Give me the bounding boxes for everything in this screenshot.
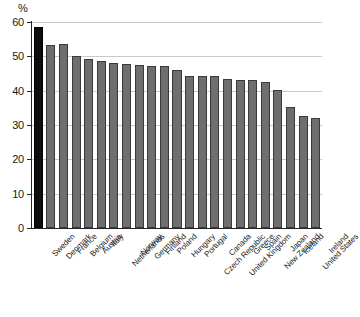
y-axis-tick-label: 20 [0, 153, 24, 165]
y-axis-tick-label: 0 [0, 222, 24, 234]
y-axis-tick-label-wrap: 50 [0, 50, 24, 62]
bar [273, 90, 282, 228]
bar [147, 66, 156, 228]
y-axis-tick-label: 60 [0, 16, 24, 28]
bar [248, 80, 257, 228]
bar [84, 59, 93, 228]
y-axis-tick-label: 50 [0, 50, 24, 62]
y-axis-tick [27, 228, 32, 229]
y-axis-tick-label-wrap: 40 [0, 85, 24, 97]
y-axis-tick-label: 10 [0, 188, 24, 200]
bar [198, 76, 207, 228]
bar [72, 56, 81, 228]
y-axis-tick-label-wrap: 0 [0, 222, 24, 234]
bar [261, 82, 270, 228]
bar [299, 116, 308, 228]
y-axis-tick-label-wrap: 20 [0, 153, 24, 165]
y-axis-tick-label-wrap: 10 [0, 188, 24, 200]
bar [185, 76, 194, 228]
bar [34, 27, 43, 228]
bar [286, 107, 295, 228]
bar [59, 44, 68, 228]
bar [210, 76, 219, 228]
bar [135, 65, 144, 228]
y-axis-tick-label-wrap: 30 [0, 119, 24, 131]
bar [97, 61, 106, 228]
bar [46, 45, 55, 228]
x-axis-line [31, 228, 322, 229]
y-axis-tick-label-wrap: 60 [0, 16, 24, 28]
bar [160, 66, 169, 228]
bar [122, 64, 131, 228]
bar [223, 79, 232, 228]
y-axis-unit-label: % [18, 2, 28, 14]
bar [172, 70, 181, 228]
y-axis-tick-label: 30 [0, 119, 24, 131]
y-axis-tick-label: 40 [0, 85, 24, 97]
plot-area [32, 22, 322, 228]
bar [109, 63, 118, 228]
bar [236, 80, 245, 228]
bar [311, 118, 320, 228]
